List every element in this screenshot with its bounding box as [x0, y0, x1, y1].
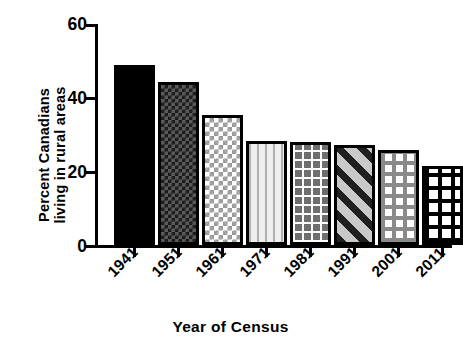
bar-1951: [158, 82, 199, 245]
y-axis-title-line-1: Percent Canadians: [36, 88, 52, 222]
y-tick-mark-20: [86, 171, 95, 174]
plot-area: [95, 24, 452, 248]
y-tick-label-60: 60: [43, 16, 87, 34]
y-tick-mark-0: [86, 245, 95, 248]
bar-2001: [378, 150, 419, 245]
bar-1981: [290, 142, 331, 245]
y-axis-line: [95, 24, 98, 248]
bar-2011: [422, 166, 463, 245]
y-tick-mark-40: [86, 97, 95, 100]
y-axis-title: Percent Canadians living in rural areas: [30, 40, 74, 270]
y-tick-mark-60: [86, 24, 95, 27]
y-tick-label-20: 20: [43, 164, 87, 182]
y-tick-label-40: 40: [43, 90, 87, 108]
bar-1991: [334, 145, 375, 245]
bar-1971: [246, 141, 287, 245]
y-tick-label-0: 0: [43, 238, 87, 256]
x-axis-title: Year of Census: [0, 318, 461, 336]
bar-1961: [202, 115, 243, 245]
bar-1941: [114, 65, 155, 245]
